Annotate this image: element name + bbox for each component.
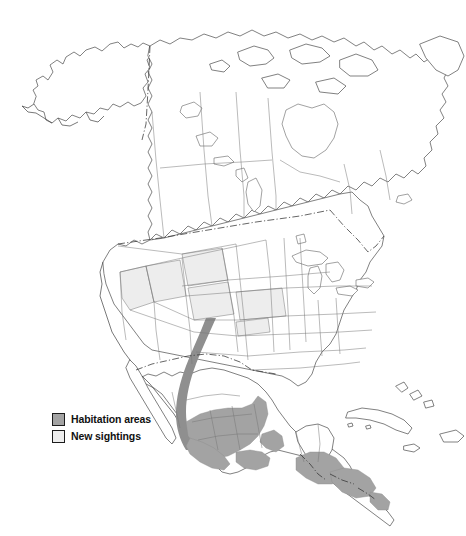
lake-ontario — [356, 278, 374, 288]
jamaica — [404, 444, 420, 452]
legend-swatch-new-sightings — [52, 430, 65, 443]
legend-item-habitation-areas: Habitation areas — [52, 412, 151, 427]
habitation-belize-honduras — [330, 468, 376, 498]
labrador-lake — [396, 194, 412, 204]
sighting-area-colorado — [188, 282, 234, 320]
bahamas-2 — [410, 390, 422, 400]
bahamas-1 — [396, 382, 408, 392]
distribution-map-figure: Habitation areas New sightings — [0, 0, 466, 536]
legend-swatch-habitation-areas — [52, 413, 65, 426]
islet-2 — [366, 425, 371, 429]
cuba — [346, 408, 412, 434]
islet-1 — [348, 423, 353, 427]
north-america-map — [0, 0, 466, 536]
kenai-coast — [86, 112, 104, 122]
sighting-area-wyoming — [182, 248, 228, 286]
hispaniola — [440, 430, 464, 442]
legend-label-habitation-areas: Habitation areas — [71, 413, 151, 426]
alaska-landmass — [33, 42, 152, 123]
bahamas-3 — [424, 400, 434, 408]
map-legend: Habitation areas New sightings — [52, 412, 151, 444]
legend-item-new-sightings: New sightings — [52, 429, 151, 444]
legend-label-new-sightings: New sightings — [71, 430, 141, 443]
lake-nipigon — [296, 234, 306, 244]
